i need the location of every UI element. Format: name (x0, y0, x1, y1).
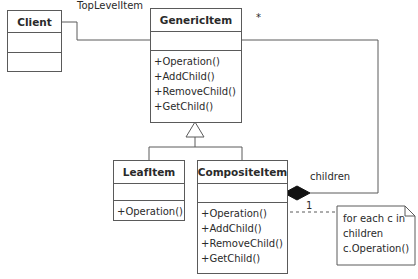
class-attributes (198, 184, 287, 203)
multiplicity-one: 1 (306, 200, 312, 211)
note-line: for each c in (343, 211, 415, 226)
operation: +Operation() (154, 54, 241, 69)
client-association-line (61, 22, 150, 40)
operation: +GetChild() (154, 99, 241, 114)
multiplicity-many: * (256, 12, 261, 23)
class-client[interactable]: Client (7, 10, 62, 72)
operation: +Operation() (201, 206, 287, 221)
class-name: LeafItem (114, 161, 184, 184)
role-label-toplevelitem: TopLevelItem (77, 0, 143, 11)
class-operations: +Operation() (114, 201, 184, 219)
class-operations (8, 53, 61, 71)
class-name: Client (8, 11, 61, 33)
class-attributes (114, 184, 184, 201)
class-compositeitem[interactable]: CompositeItem +Operation() +AddChild() +… (197, 160, 288, 274)
class-name: CompositeItem (198, 161, 287, 184)
class-attributes (151, 32, 241, 51)
operation: +RemoveChild() (201, 236, 287, 251)
class-attributes (8, 33, 61, 53)
class-genericitem[interactable]: GenericItem +Operation() +AddChild() +Re… (150, 8, 242, 123)
class-operations: +Operation() +AddChild() +RemoveChild() … (151, 51, 241, 114)
operation: +Operation() (117, 204, 184, 219)
note-line: c.Operation() (343, 241, 415, 256)
operation: +AddChild() (201, 221, 287, 236)
operation: +GetChild() (201, 251, 287, 266)
generalization-triangle-icon (186, 122, 204, 137)
note-line: children (343, 226, 415, 241)
class-operations: +Operation() +AddChild() +RemoveChild() … (198, 203, 287, 266)
class-name: GenericItem (151, 9, 241, 32)
role-label-children: children (310, 171, 350, 182)
note-comment: for each c in children c.Operation() (337, 206, 415, 265)
operation: +AddChild() (154, 69, 241, 84)
class-leafitem[interactable]: LeafItem +Operation() (113, 160, 185, 221)
operation: +RemoveChild() (154, 84, 241, 99)
